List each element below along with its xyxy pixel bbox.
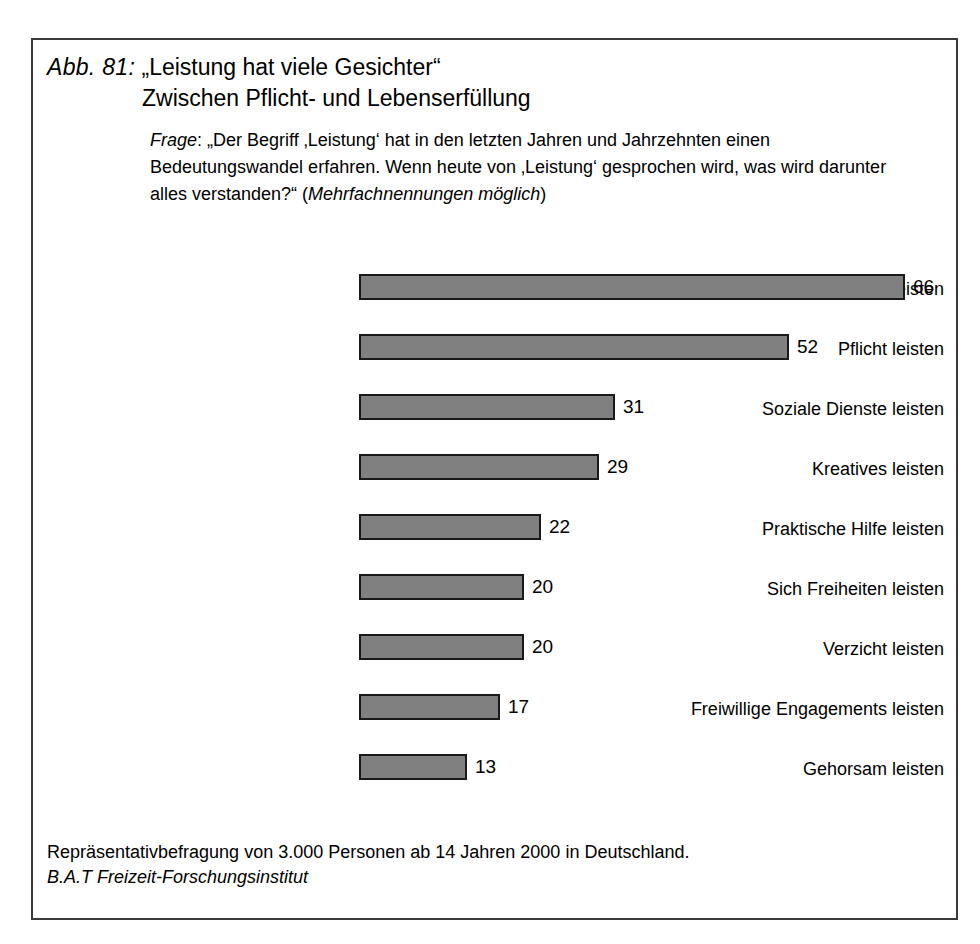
- bar-track: 29: [359, 454, 956, 484]
- bar-value-label: 20: [532, 636, 553, 658]
- bar: [359, 514, 541, 540]
- bar: [359, 634, 524, 660]
- bar-row: Soziale Dienste leisten31: [33, 380, 956, 440]
- figure-title-line-2: Zwischen Pflicht- und Lebenserfüllung: [47, 83, 946, 114]
- bar-value-label: 29: [607, 456, 628, 478]
- bar: [359, 574, 524, 600]
- bar-row: Sich Freiheiten leisten20: [33, 560, 956, 620]
- bar: [359, 274, 905, 300]
- bar-value-label: 13: [475, 756, 496, 778]
- bar-track: 13: [359, 754, 956, 784]
- question-note-close: ): [540, 184, 546, 204]
- figure-frame: Abb. 81: „Leistung hat viele Gesichter“ …: [31, 38, 958, 920]
- bar-row: Kreatives leisten29: [33, 440, 956, 500]
- bar-track: 20: [359, 574, 956, 604]
- bar-track: 22: [359, 514, 956, 544]
- question-separator: :: [197, 130, 207, 150]
- bar-value-label: 20: [532, 576, 553, 598]
- bar-value-label: 22: [549, 516, 570, 538]
- bar-track: 52: [359, 334, 956, 364]
- bar: [359, 754, 467, 780]
- figure-institute: B.A.T Freizeit-Forschungsinstitut: [47, 865, 689, 890]
- bar-row: Freiwillige Engagements leisten17: [33, 680, 956, 740]
- bar-value-label: 17: [508, 696, 529, 718]
- bar-track: 20: [359, 634, 956, 664]
- bar-value-label: 31: [623, 396, 644, 418]
- figure-title-text: „Leistung hat viele Gesichter“: [141, 54, 440, 80]
- bar-row: Pflicht leisten52: [33, 320, 956, 380]
- bar-track: 31: [359, 394, 956, 424]
- figure-footer-block: Repräsentativbefragung von 3.000 Persone…: [47, 840, 689, 890]
- bar-chart: Produktives leisten66Pflicht leisten52So…: [33, 260, 956, 820]
- bar-track: 17: [359, 694, 956, 724]
- figure-title-block: Abb. 81: „Leistung hat viele Gesichter“ …: [47, 52, 946, 114]
- question-label: Frage: [150, 130, 197, 150]
- bar-track: 66: [359, 274, 956, 304]
- bar-value-label: 52: [797, 336, 818, 358]
- figure-number: Abb. 81:: [47, 54, 135, 80]
- bar: [359, 334, 789, 360]
- bar-row: Gehorsam leisten13: [33, 740, 956, 800]
- bar-value-label: 66: [913, 276, 934, 298]
- bar-row: Praktische Hilfe leisten22: [33, 500, 956, 560]
- bar-row: Verzicht leisten20: [33, 620, 956, 680]
- bar: [359, 694, 500, 720]
- figure-title-line-1: Abb. 81: „Leistung hat viele Gesichter“: [47, 52, 946, 83]
- question-note: Mehrfachnennungen möglich: [308, 184, 540, 204]
- bar: [359, 454, 599, 480]
- bar: [359, 394, 615, 420]
- figure-source-note: Repräsentativbefragung von 3.000 Persone…: [47, 840, 689, 865]
- figure-question-block: Frage: „Der Begriff ‚Leistung‘ hat in de…: [150, 127, 890, 208]
- bar-row: Produktives leisten66: [33, 260, 956, 320]
